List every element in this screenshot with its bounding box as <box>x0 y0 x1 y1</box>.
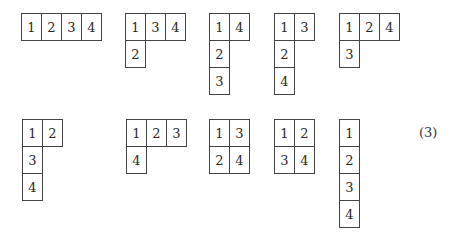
tableau-cell: 3 <box>274 146 295 174</box>
equation-label: (3) <box>419 125 437 140</box>
tableau-cell: 4 <box>274 67 295 95</box>
tableau-cell: 4 <box>229 146 250 174</box>
tableau-cell: 1 <box>274 119 295 147</box>
tableau-cell: 2 <box>209 40 230 68</box>
tableau-cell: 3 <box>22 146 43 174</box>
tableau-cell: 4 <box>126 146 147 174</box>
tableau-cell: 1 <box>21 13 42 41</box>
tableau-cell: 1 <box>339 13 360 41</box>
tableau-cell: 4 <box>229 13 250 41</box>
tableau-cell: 3 <box>145 13 166 41</box>
tableau-cell: 3 <box>294 13 315 41</box>
tableau-cell: 2 <box>339 146 360 174</box>
tableau-cell: 2 <box>294 119 315 147</box>
tableau-cell: 1 <box>209 13 230 41</box>
tableau-cell: 1 <box>125 13 146 41</box>
tableau-cell: 2 <box>274 40 295 68</box>
tableau-cell: 4 <box>379 13 400 41</box>
tableau-cell: 4 <box>294 146 315 174</box>
tableau-cell: 3 <box>166 119 187 147</box>
tableau-cell: 3 <box>209 67 230 95</box>
tableau-cell: 2 <box>209 146 230 174</box>
tableau-cell: 1 <box>126 119 147 147</box>
tableau-cell: 2 <box>42 119 63 147</box>
tableau-cell: 4 <box>339 200 360 228</box>
tableau-cell: 1 <box>339 119 360 147</box>
tableau-cell: 3 <box>339 173 360 201</box>
tableau-cell: 1 <box>22 119 43 147</box>
tableau-cell: 3 <box>61 13 82 41</box>
tableau-cell: 3 <box>339 40 360 68</box>
tableau-cell: 2 <box>146 119 167 147</box>
tableau-cell: 2 <box>359 13 380 41</box>
tableau-cell: 4 <box>22 173 43 201</box>
tableau-cell: 1 <box>274 13 295 41</box>
tableau-cell: 1 <box>209 119 230 147</box>
tableau-cell: 3 <box>229 119 250 147</box>
tableau-cell: 2 <box>41 13 62 41</box>
tableau-cell: 2 <box>125 40 146 68</box>
tableau-cell: 4 <box>81 13 102 41</box>
tableau-cell: 4 <box>165 13 186 41</box>
